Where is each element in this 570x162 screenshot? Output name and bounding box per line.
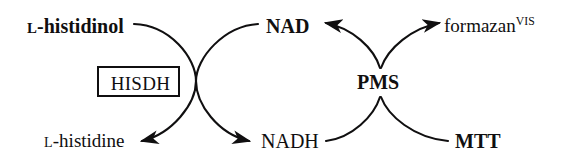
label-nadh: NADH xyxy=(261,131,319,151)
enzyme-box-hisdh: HISDH xyxy=(97,66,180,97)
arrow-pms-to-formazan xyxy=(381,23,439,68)
formazan-text: formazan xyxy=(444,15,516,36)
arrow-pms-to-nad xyxy=(326,23,380,68)
formazan-vis-superscript: VIS xyxy=(516,15,535,28)
l-histidine-smallcap-prefix: L xyxy=(44,134,53,150)
l-histidine-text: -histidine xyxy=(53,130,125,151)
label-pms: PMS xyxy=(357,72,399,92)
reaction-scheme-diagram: L-histidinol NAD formazanVIS L-histidine… xyxy=(0,0,570,162)
label-formazan: formazanVIS xyxy=(444,16,535,35)
enzyme-label-hisdh: HISDH xyxy=(99,68,182,99)
label-nad: NAD xyxy=(266,16,309,36)
l-histidinol-smallcap-prefix: L xyxy=(27,20,37,36)
arrow-mtt-to-pms xyxy=(381,97,448,141)
label-l-histidine: L-histidine xyxy=(44,131,125,150)
arrow-nadh-to-pms xyxy=(326,97,380,141)
label-mtt: MTT xyxy=(455,131,501,151)
label-l-histidinol: L-histidinol xyxy=(27,16,124,36)
l-histidinol-text: -histidinol xyxy=(37,15,124,37)
